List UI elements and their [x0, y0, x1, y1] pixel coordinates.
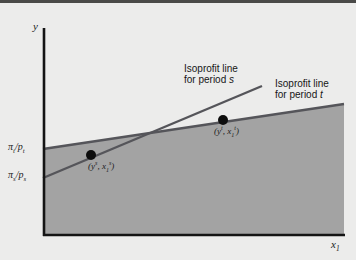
point-period-s	[86, 150, 96, 160]
callout-period-t-line1: Isoprofit line	[275, 78, 329, 89]
tick-label-pi-s-over-p-s: πs/ps	[8, 169, 26, 183]
plot-canvas	[0, 0, 356, 260]
point-label-period-s: (ys, x1s)	[88, 160, 114, 174]
x-axis-label: x1	[331, 238, 340, 254]
callout-isoprofit-period-s: Isoprofit line for period s	[184, 63, 238, 85]
point-period-t	[218, 115, 228, 125]
callout-period-t-line2: for period t	[275, 89, 329, 100]
y-axis-label: y	[33, 20, 38, 32]
callout-period-s-line2: for period s	[184, 74, 238, 85]
point-label-period-t: (yt, x1t)	[214, 125, 239, 139]
callout-isoprofit-period-t: Isoprofit line for period t	[275, 78, 329, 100]
isoprofit-diagram: y x1 πt/pt πs/ps (ys, x1s) (yt, x1t) Iso…	[0, 0, 356, 260]
callout-period-s-line1: Isoprofit line	[184, 63, 238, 74]
tick-label-pi-t-over-p-t: πt/pt	[8, 141, 25, 155]
